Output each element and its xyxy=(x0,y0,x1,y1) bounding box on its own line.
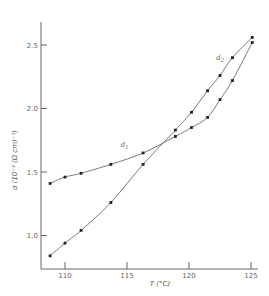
data-point-d1 xyxy=(206,116,209,119)
data-point-d1 xyxy=(231,79,234,82)
data-point-d1 xyxy=(174,135,177,138)
series-label-d2: d2 xyxy=(216,54,224,63)
x-axis-label: T (°C) xyxy=(150,280,171,288)
conductivity-chart: 1101151201251.01.52.02.5 d1d2 T (°C) σ (… xyxy=(0,0,269,296)
x-tick-label: 120 xyxy=(182,272,195,280)
data-point-d2 xyxy=(80,229,83,232)
y-axis-label: σ (10⁻³ (Ω cm)⁻¹) xyxy=(11,130,19,190)
data-point-d2 xyxy=(251,36,254,39)
data-point-d1 xyxy=(109,163,112,166)
series-label-d1: d1 xyxy=(121,141,129,150)
y-tick-label: 1.5 xyxy=(27,169,38,177)
data-point-d1 xyxy=(64,176,67,179)
data-point-d1 xyxy=(219,98,222,101)
y-tick-label: 2.5 xyxy=(27,42,38,50)
data-point-d2 xyxy=(190,111,193,114)
curve-d2 xyxy=(50,37,252,255)
data-point-d2 xyxy=(174,129,177,132)
x-tick-label: 110 xyxy=(58,272,71,280)
series-markers xyxy=(49,36,254,257)
data-point-d2 xyxy=(219,74,222,77)
x-tick-label: 115 xyxy=(120,272,133,280)
curve-d1 xyxy=(50,42,252,183)
data-point-d2 xyxy=(231,56,234,59)
data-point-d2 xyxy=(64,242,67,245)
series-labels: d1d2 xyxy=(121,54,224,149)
data-point-d2 xyxy=(142,163,145,166)
y-tick-label: 1.0 xyxy=(27,232,38,240)
data-point-d2 xyxy=(206,89,209,92)
y-tick-label: 2.0 xyxy=(27,105,38,113)
series-curves xyxy=(50,37,252,255)
data-point-d2 xyxy=(109,201,112,204)
data-point-d1 xyxy=(190,126,193,129)
data-point-d2 xyxy=(49,254,52,257)
data-point-d1 xyxy=(142,152,145,155)
data-point-d1 xyxy=(49,182,52,185)
data-point-d1 xyxy=(251,41,254,44)
data-point-d1 xyxy=(80,172,83,175)
x-tick-label: 125 xyxy=(244,272,257,280)
